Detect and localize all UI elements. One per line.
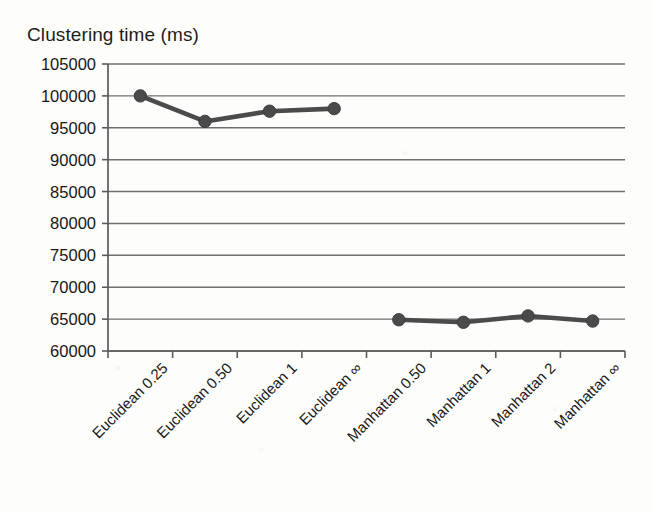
x-axis-tick-label: Euclidean ∞: [296, 359, 365, 428]
y-axis-tick-label: 65000: [50, 310, 96, 328]
data-point-marker: [586, 315, 598, 327]
x-axis-tick-label: Manhattan 2: [487, 359, 558, 430]
data-point-marker: [393, 314, 405, 326]
series-line-segment: [399, 316, 593, 322]
y-axis-tick-label: 70000: [50, 278, 96, 296]
data-point-marker: [522, 310, 534, 322]
y-axis-tick-label: 105000: [41, 55, 96, 73]
y-axis-tick-label: 95000: [50, 119, 96, 137]
series-line-segment: [140, 96, 334, 122]
y-axis-tick-label: 60000: [50, 342, 96, 360]
chart-page: Clustering time (ms) 1050001000009500090…: [0, 0, 653, 511]
y-axis-tick-label: 100000: [41, 87, 96, 105]
y-axis-tick-label: 90000: [50, 151, 96, 169]
x-axis-tick-label: Manhattan 1: [423, 359, 494, 430]
data-point-marker: [328, 102, 340, 114]
data-point-marker: [457, 316, 469, 328]
line-chart-plot: 1050001000009500090000850008000075000700…: [0, 0, 653, 511]
x-axis-tick-label: Manhattan ∞: [550, 359, 623, 432]
data-point-marker: [199, 115, 211, 127]
data-point-marker: [134, 90, 146, 102]
x-axis-tick-label: Euclidean 1: [233, 359, 300, 426]
y-axis-tick-label: 75000: [50, 246, 96, 264]
y-axis-tick-label: 80000: [50, 214, 96, 232]
data-point-marker: [263, 105, 275, 117]
y-axis-tick-label: 85000: [50, 183, 96, 201]
